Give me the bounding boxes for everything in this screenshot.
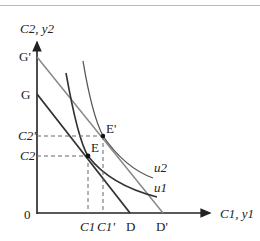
label-u1: u1: [154, 180, 167, 195]
label-e-prime: E': [106, 121, 116, 136]
tick-c2: C2: [20, 148, 36, 163]
origin-label: 0: [24, 207, 31, 222]
tick-c1: C1: [80, 219, 95, 234]
indifference-curve-u2: [83, 61, 153, 178]
label-g-prime: G': [19, 49, 31, 64]
label-e: E: [91, 140, 99, 155]
y-axis-label: C2, y2: [20, 21, 54, 36]
point-e-prime: [101, 134, 105, 138]
label-d-prime: D': [156, 219, 168, 234]
label-d: D: [126, 219, 135, 234]
outer-budget-line: [37, 57, 163, 213]
label-u2: u2: [154, 160, 168, 175]
tick-c2-prime: C2': [18, 128, 36, 143]
intertemporal-choice-diagram: C2, y2 C1, y1 0 G' G D D' E E' C2' C2 C1…: [0, 0, 260, 241]
label-g: G: [21, 87, 30, 102]
point-e: [86, 154, 91, 159]
x-axis-label: C1, y1: [220, 206, 254, 221]
inner-budget-line: [37, 94, 130, 213]
tick-c1-prime: C1': [97, 219, 115, 234]
